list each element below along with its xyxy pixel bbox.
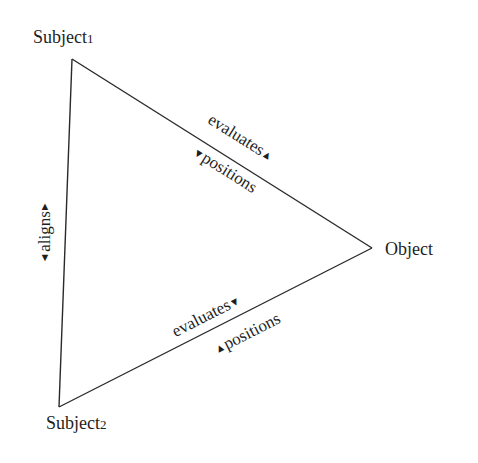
- node-subject2-suffix: 2: [100, 417, 107, 432]
- edge-object-subject2: [59, 248, 372, 407]
- node-subject1: Subject1: [33, 28, 94, 46]
- edge-subject2-subject1: [59, 59, 72, 407]
- node-subject2-label: Subject: [46, 413, 100, 433]
- aligns-text: aligns: [35, 211, 54, 252]
- node-subject1-suffix: 1: [87, 31, 94, 46]
- node-object: Object: [385, 240, 433, 258]
- edge-subject1-object: [72, 59, 372, 248]
- node-object-label: Object: [385, 239, 433, 259]
- edge-label-s1-s2-aligns: ▼aligns▲: [36, 191, 53, 273]
- arrow-left-icon: ▼: [40, 252, 51, 263]
- triangle-edges: [0, 0, 478, 463]
- node-subject2: Subject2: [46, 414, 107, 432]
- arrow-right-icon: ▲: [40, 200, 51, 211]
- triangle-diagram: Subject1 Object Subject2 evaluates▲ ▼pos…: [0, 0, 478, 463]
- node-subject1-label: Subject: [33, 27, 87, 47]
